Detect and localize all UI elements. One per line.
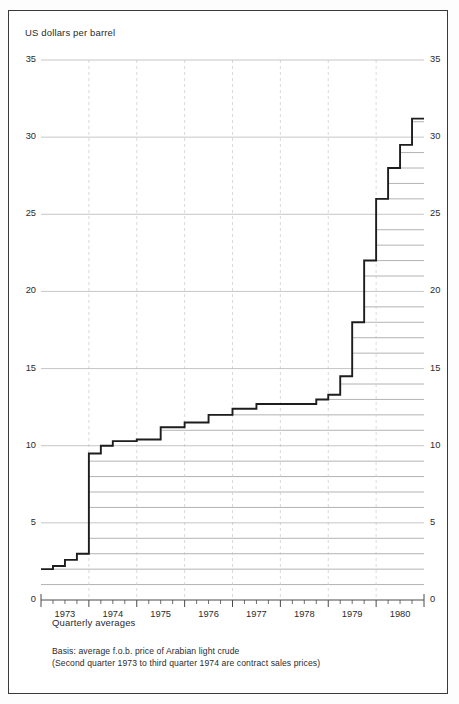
y-axis-tick-r-0: 0 <box>430 594 452 604</box>
x-axis-tick-1975: 1975 <box>141 609 181 619</box>
y-axis-tick-l-20: 20 <box>14 285 36 295</box>
y-axis-tick-l-35: 35 <box>14 54 36 64</box>
y-axis-tick-l-10: 10 <box>14 440 36 450</box>
x-axis-tick-1978: 1978 <box>284 609 324 619</box>
x-axis-tick-1976: 1976 <box>189 609 229 619</box>
y-axis-tick-l-0: 0 <box>14 594 36 604</box>
chart-page: US dollars per barrel Quarterly averages… <box>0 0 459 704</box>
step-chart-plot <box>0 0 459 704</box>
y-axis-tick-r-5: 5 <box>430 517 452 527</box>
y-axis-tick-r-20: 20 <box>430 285 452 295</box>
y-axis-tick-r-15: 15 <box>430 363 452 373</box>
x-axis-tick-1974: 1974 <box>93 609 133 619</box>
x-axis-tick-1977: 1977 <box>236 609 276 619</box>
y-axis-tick-l-25: 25 <box>14 208 36 218</box>
y-axis-tick-l-30: 30 <box>14 131 36 141</box>
y-axis-tick-r-10: 10 <box>430 440 452 450</box>
y-axis-tick-l-15: 15 <box>14 363 36 373</box>
x-axis-tick-1973: 1973 <box>45 609 85 619</box>
y-axis-tick-r-30: 30 <box>430 131 452 141</box>
y-axis-tick-l-5: 5 <box>14 517 36 527</box>
y-axis-tick-r-25: 25 <box>430 208 452 218</box>
y-axis-tick-r-35: 35 <box>430 54 452 64</box>
x-axis-tick-1979: 1979 <box>332 609 372 619</box>
x-axis-tick-1980: 1980 <box>380 609 420 619</box>
